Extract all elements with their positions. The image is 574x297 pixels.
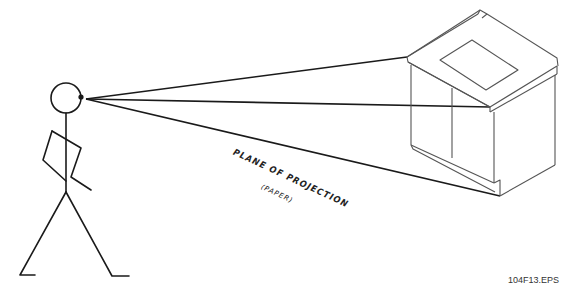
arm-back: [43, 131, 66, 181]
leg-left: [20, 192, 66, 275]
eye-dot: [78, 94, 83, 99]
stick-figure-observer: [20, 83, 129, 276]
leg-right: [66, 192, 129, 276]
cabinet: [407, 10, 558, 196]
arm: [52, 131, 91, 190]
head: [51, 83, 81, 113]
figure-id: 104F13.EPS: [508, 275, 559, 285]
projection-diagram: [0, 0, 574, 297]
